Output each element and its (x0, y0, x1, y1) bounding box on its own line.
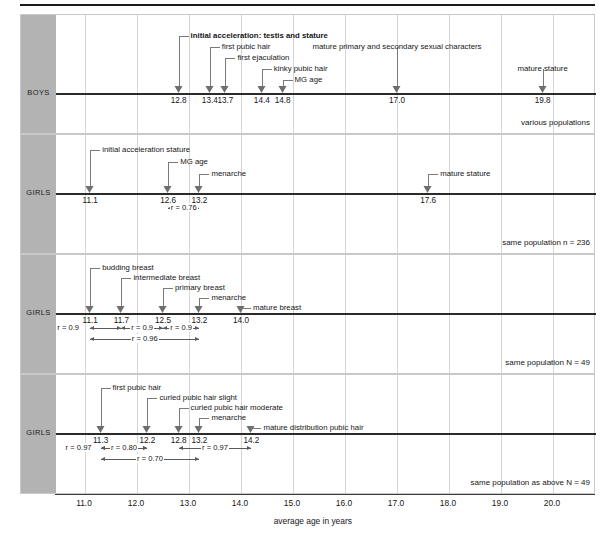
correlation-label: r = 0.80 (110, 443, 138, 452)
top-rule (20, 4, 595, 6)
growth-events-chart: BOYS12.8initial acceleration: testis and… (0, 0, 615, 555)
leader-elbow (283, 80, 293, 81)
gridline (553, 15, 554, 133)
event-value-label: 14.2 (243, 436, 259, 445)
leader-elbow (225, 58, 235, 59)
leader-stem (179, 408, 180, 426)
event-label: first pubic hair (222, 42, 271, 51)
event-label: menarche (211, 413, 246, 422)
span-arrow-left-icon (90, 326, 94, 330)
panel-sidebar (21, 15, 56, 133)
gridline (85, 15, 86, 133)
x-tick-label: 18.0 (440, 498, 456, 508)
leader-stem (163, 288, 164, 306)
plot-area: 12.8initial acceleration: testis and sta… (56, 15, 596, 133)
event-value-label: 13.2 (191, 316, 207, 325)
x-tick-label: 13.0 (180, 498, 196, 508)
event-label: menarche (211, 169, 246, 178)
panel-1: BOYS12.8initial acceleration: testis and… (20, 14, 595, 134)
gridline (501, 15, 502, 133)
x-tick-label: 14.0 (232, 498, 248, 508)
event-marker[interactable] (96, 426, 104, 433)
event-value-label: 13.4 (202, 96, 218, 105)
span-arrow-left-icon (163, 326, 167, 330)
event-value-label: 11.1 (83, 196, 98, 205)
event-marker[interactable] (195, 186, 203, 193)
leader-elbow (163, 288, 173, 289)
leader-elbow (179, 36, 189, 37)
leader-elbow (179, 408, 189, 409)
leader-stem (199, 174, 200, 186)
event-label: menarche (211, 293, 246, 302)
x-tick-label: 12.0 (128, 498, 144, 508)
leader-elbow (262, 69, 272, 70)
span-arrow-right-icon (247, 446, 251, 450)
panel-note: various populations (521, 118, 590, 127)
panel-note: same population n = 236 (502, 238, 590, 247)
span-arrow-left-icon (121, 326, 125, 330)
event-marker[interactable] (424, 186, 432, 193)
event-value-label: 14.0 (233, 316, 249, 325)
leader-stem (90, 150, 91, 186)
event-label: mature stature (517, 64, 567, 73)
baseline (56, 93, 596, 95)
event-value-label: 17.6 (420, 196, 436, 205)
x-axis-title: average age in years (274, 516, 352, 526)
event-marker[interactable] (86, 306, 94, 313)
event-marker[interactable] (278, 86, 286, 93)
event-marker[interactable] (117, 306, 125, 313)
correlation-label: r = 0.76 (170, 203, 198, 212)
span-arrow-left-icon (101, 457, 105, 461)
leader-elbow (199, 174, 209, 175)
span-arrow-left-icon (179, 446, 183, 450)
event-label: mature breast (253, 303, 301, 312)
leader-stem (397, 47, 398, 86)
event-marker[interactable] (221, 86, 229, 93)
leader-elbow (147, 398, 157, 399)
x-tick-label: 17.0 (388, 498, 404, 508)
event-marker[interactable] (257, 86, 265, 93)
group-label-girls-4: GIRLS (21, 428, 56, 437)
x-tick-label: 19.0 (492, 498, 508, 508)
correlation-label: r = 0.97 (65, 443, 93, 452)
group-label-boys-1: BOYS (21, 88, 56, 97)
event-label: mature distribution pubic hair (263, 423, 363, 432)
leader-elbow (210, 47, 220, 48)
event-marker[interactable] (205, 86, 213, 93)
event-label: MG age (295, 75, 323, 84)
leader-stem (210, 47, 211, 86)
event-marker[interactable] (86, 186, 94, 193)
leader-stem (225, 58, 226, 86)
event-marker[interactable] (143, 426, 151, 433)
event-marker[interactable] (159, 306, 167, 313)
event-label: curled pubic hair moderate (191, 403, 283, 412)
gridline (345, 15, 346, 133)
span-arrow-left-icon (101, 446, 105, 450)
plot-area: 11.1initial acceleration stature12.6MG a… (56, 135, 596, 253)
event-marker[interactable] (174, 426, 182, 433)
x-tick-label: 11.0 (76, 498, 92, 508)
event-marker[interactable] (195, 426, 203, 433)
leader-stem (168, 162, 169, 186)
x-tick-label: 20.0 (544, 498, 560, 508)
span-arrow-right-icon (195, 457, 199, 461)
event-value-label: 11.7 (114, 316, 129, 325)
gridline (449, 15, 450, 133)
event-value-label: 11.1 (83, 316, 98, 325)
correlation-label: r = 0.9 (56, 323, 80, 332)
leader-elbow (168, 162, 178, 163)
span-arrow-right-icon (143, 446, 147, 450)
event-label: intermediate breast (133, 273, 200, 282)
event-value-label: 12.8 (171, 436, 187, 445)
event-marker[interactable] (393, 86, 401, 93)
event-label: initial acceleration stature (102, 145, 190, 154)
event-marker[interactable] (195, 306, 203, 313)
event-marker[interactable] (174, 86, 182, 93)
leader-elbow (428, 174, 438, 175)
panel-3: GIRLS11.1budding breast11.7intermediate … (20, 254, 595, 374)
event-marker[interactable] (164, 186, 172, 193)
correlation-label: r = 0.70 (136, 454, 164, 463)
event-marker[interactable] (538, 86, 546, 93)
event-value-label: 13.7 (217, 96, 233, 105)
gridline (137, 15, 138, 133)
